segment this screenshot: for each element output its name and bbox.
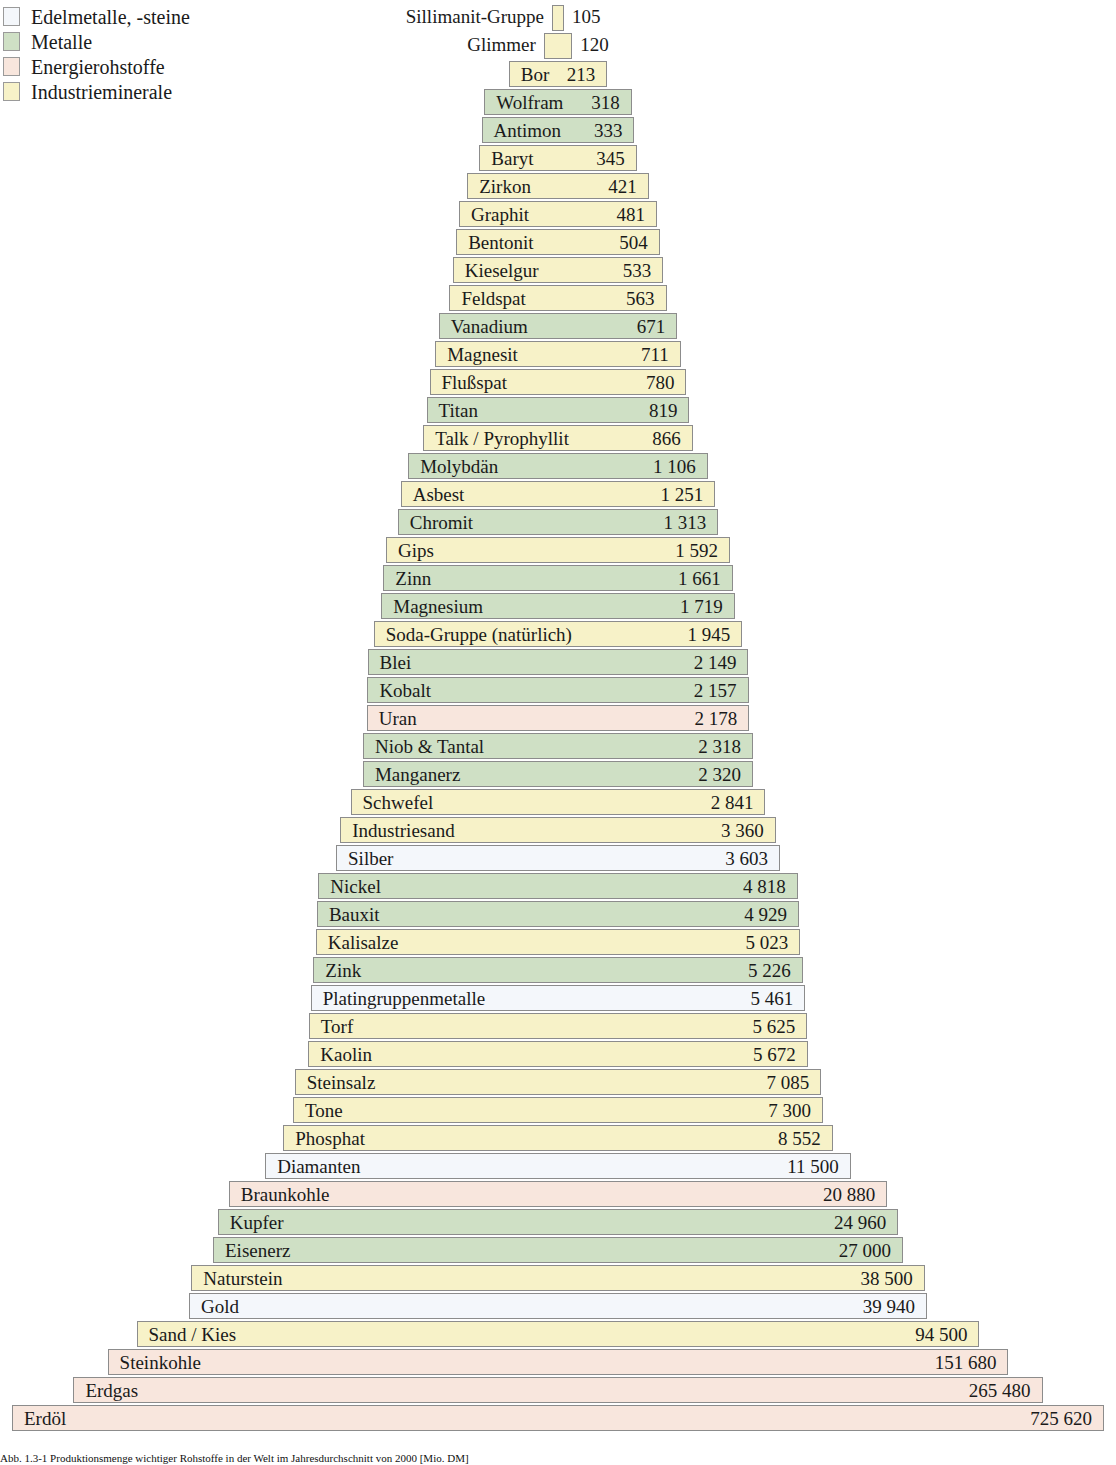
pyramid-bar[interactable]: Gips1 592 xyxy=(386,537,730,563)
pyramid-bar[interactable]: Tone7 300 xyxy=(293,1097,823,1123)
bar-label: Bauxit xyxy=(318,905,380,924)
pyramid-bar[interactable]: Bentonit504 xyxy=(456,229,660,255)
pyramid-bar[interactable]: Steinsalz7 085 xyxy=(295,1069,822,1095)
pyramid-bar[interactable]: Zinn1 661 xyxy=(383,565,732,591)
bar-value: 333 xyxy=(594,121,634,140)
pyramid-row: Steinkohle151 680 xyxy=(0,1348,1116,1376)
bar-value: 866 xyxy=(652,429,692,448)
bar-value: 24 960 xyxy=(834,1213,897,1232)
pyramid-bar[interactable] xyxy=(552,5,564,31)
bar-value: 3 360 xyxy=(721,821,775,840)
pyramid-bar[interactable]: Erdgas265 480 xyxy=(73,1377,1042,1403)
pyramid-bar[interactable]: Vanadium671 xyxy=(439,313,678,339)
figure-caption: Abb. 1.3-1 Produktionsmenge wichtiger Ro… xyxy=(0,1452,1110,1465)
bar-value: 711 xyxy=(641,345,680,364)
pyramid-bar[interactable]: Phosphat8 552 xyxy=(283,1125,833,1151)
pyramid-bar[interactable]: Kalisalze5 023 xyxy=(316,929,800,955)
pyramid-bar[interactable]: Zirkon421 xyxy=(467,173,649,199)
pyramid-bar[interactable]: Nickel4 818 xyxy=(318,873,797,899)
pyramid-bar[interactable]: Torf5 625 xyxy=(309,1013,807,1039)
pyramid-row: Erdgas265 480 xyxy=(0,1376,1116,1404)
pyramid-bar[interactable]: Platingruppenmetalle5 461 xyxy=(311,985,806,1011)
bar-value: 7 085 xyxy=(766,1073,820,1092)
pyramid-row: Molybdän1 106 xyxy=(0,452,1116,480)
pyramid-bar[interactable]: Soda-Gruppe (natürlich)1 945 xyxy=(374,621,743,647)
pyramid-row: Gold39 940 xyxy=(0,1292,1116,1320)
bar-label: Titan xyxy=(428,401,478,420)
bar-label: Antimon xyxy=(483,121,562,140)
pyramid-bar[interactable]: Silber3 603 xyxy=(336,845,780,871)
pyramid-bar[interactable]: Zink5 226 xyxy=(313,957,802,983)
bar-label: Eisenerz xyxy=(214,1241,290,1260)
pyramid-bar[interactable]: Naturstein38 500 xyxy=(191,1265,924,1291)
pyramid-row: Braunkohle20 880 xyxy=(0,1180,1116,1208)
pyramid-bar[interactable]: Diamanten11 500 xyxy=(265,1153,851,1179)
bar-label: Braunkohle xyxy=(230,1185,330,1204)
bar-label: Platingruppenmetalle xyxy=(312,989,486,1008)
pyramid-bar[interactable]: Titan819 xyxy=(427,397,690,423)
pyramid-bar[interactable]: Flußspat780 xyxy=(430,369,687,395)
bar-label: Blei xyxy=(369,653,412,672)
bar-value: 5 672 xyxy=(753,1045,807,1064)
bar-label: Nickel xyxy=(319,877,381,896)
pyramid-bar[interactable]: Talk / Pyrophyllit866 xyxy=(423,425,693,451)
pyramid-row: Flußspat780 xyxy=(0,368,1116,396)
legend-swatch-icon-energie xyxy=(3,57,20,76)
pyramid-bar[interactable] xyxy=(544,33,572,59)
pyramid-bar[interactable]: Molybdän1 106 xyxy=(408,453,708,479)
bar-value: 27 000 xyxy=(839,1241,902,1260)
bar-label: Phosphat xyxy=(284,1129,365,1148)
pyramid-bar[interactable]: Eisenerz27 000 xyxy=(213,1237,903,1263)
pyramid-bar[interactable]: Sand / Kies94 500 xyxy=(137,1321,980,1347)
pyramid-bar[interactable]: Uran2 178 xyxy=(367,705,749,731)
pyramid-row: Nickel4 818 xyxy=(0,872,1116,900)
pyramid-bar[interactable]: Erdöl725 620 xyxy=(12,1405,1104,1431)
pyramid-bar[interactable]: Kaolin5 672 xyxy=(308,1041,807,1067)
pyramid-row: Erdöl725 620 xyxy=(0,1404,1116,1432)
pyramid-bar[interactable]: Graphit481 xyxy=(459,201,657,227)
pyramid-bar[interactable]: Wolfram318 xyxy=(484,89,631,115)
bar-value: 5 461 xyxy=(751,989,805,1008)
pyramid-bar[interactable]: Braunkohle20 880 xyxy=(229,1181,888,1207)
pyramid-bar[interactable]: Bauxit4 929 xyxy=(317,901,799,927)
pyramid-bar[interactable]: Schwefel2 841 xyxy=(351,789,766,815)
bar-value: 421 xyxy=(608,177,648,196)
pyramid-bar[interactable]: Baryt345 xyxy=(479,145,636,171)
bar-value: 5 023 xyxy=(745,933,799,952)
pyramid-bar[interactable]: Bor213 xyxy=(509,61,607,87)
bar-value: 20 880 xyxy=(823,1185,886,1204)
bar-label: Asbest xyxy=(402,485,465,504)
legend-item-label: Industrieminerale xyxy=(31,82,172,102)
pyramid-bar[interactable]: Industriesand3 360 xyxy=(340,817,775,843)
bar-label: Baryt xyxy=(480,149,533,168)
bar-label: Kobalt xyxy=(368,681,431,700)
pyramid-bar[interactable]: Kupfer24 960 xyxy=(218,1209,898,1235)
pyramid-bar[interactable]: Feldspat563 xyxy=(449,285,666,311)
bar-value: 2 841 xyxy=(711,793,765,812)
pyramid-bar[interactable]: Manganerz2 320 xyxy=(363,761,753,787)
pyramid-bar[interactable]: Gold39 940 xyxy=(189,1293,927,1319)
pyramid-bar[interactable]: Magnesit711 xyxy=(435,341,681,367)
bar-label: Graphit xyxy=(460,205,529,224)
pyramid-row: Magnesit711 xyxy=(0,340,1116,368)
pyramid-bar[interactable]: Steinkohle151 680 xyxy=(108,1349,1009,1375)
pyramid-row: Zinn1 661 xyxy=(0,564,1116,592)
pyramid-row: Naturstein38 500 xyxy=(0,1264,1116,1292)
pyramid-bar[interactable]: Antimon333 xyxy=(482,117,635,143)
pyramid-bar[interactable]: Kieselgur533 xyxy=(453,257,663,283)
bar-label: Flußspat xyxy=(431,373,507,392)
bar-value: 563 xyxy=(626,289,666,308)
bar-label: Talk / Pyrophyllit xyxy=(424,429,569,448)
pyramid-bar[interactable]: Magnesium1 719 xyxy=(381,593,735,619)
pyramid-bar[interactable]: Chromit1 313 xyxy=(398,509,719,535)
pyramid-row: Gips1 592 xyxy=(0,536,1116,564)
pyramid-bar[interactable]: Kobalt2 157 xyxy=(367,677,748,703)
bar-label: Tone xyxy=(294,1101,343,1120)
bar-value: 151 680 xyxy=(935,1353,1008,1372)
pyramid-row: Sand / Kies94 500 xyxy=(0,1320,1116,1348)
pyramid-bar[interactable]: Niob & Tantal2 318 xyxy=(363,733,753,759)
pyramid-bar[interactable]: Asbest1 251 xyxy=(401,481,716,507)
pyramid-row: Torf5 625 xyxy=(0,1012,1116,1040)
pyramid-row: Niob & Tantal2 318 xyxy=(0,732,1116,760)
pyramid-bar[interactable]: Blei2 149 xyxy=(368,649,749,675)
